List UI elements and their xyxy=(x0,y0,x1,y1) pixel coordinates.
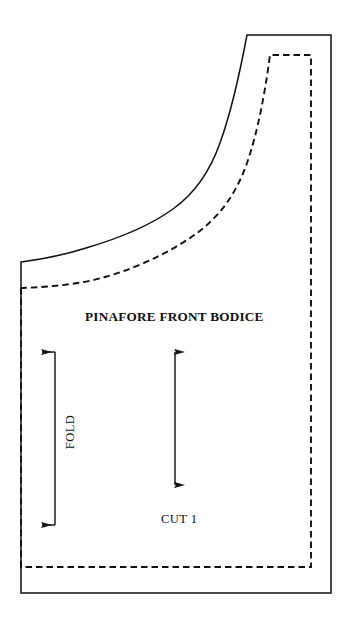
cut-quantity-label: CUT 1 xyxy=(161,513,197,526)
pattern-piece-title: PINAFORE FRONT BODICE xyxy=(85,310,264,323)
pattern-sheet: PINAFORE FRONT BODICE CUT 1 FOLD xyxy=(0,0,351,627)
fold-edge-label: FOLD xyxy=(64,415,76,449)
